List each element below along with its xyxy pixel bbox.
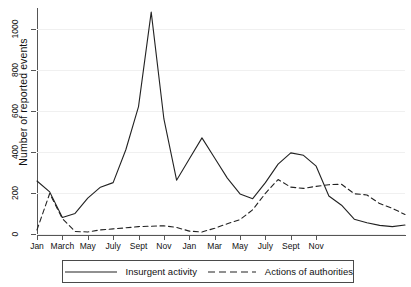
x-tick-mark (240, 235, 241, 240)
x-tick-mark (113, 235, 114, 240)
x-tick-mark (316, 235, 317, 240)
x-tick-mark (215, 235, 216, 240)
y-tick-mark (31, 234, 36, 235)
plot-area (37, 8, 405, 234)
x-tick-label: Nov (296, 241, 336, 251)
y-tick-mark (31, 111, 36, 112)
legend-swatch-solid (63, 267, 117, 277)
x-tick-mark (139, 235, 140, 240)
x-tick-mark (88, 235, 89, 240)
x-tick-mark (37, 235, 38, 240)
data-series-lines (37, 8, 405, 234)
x-tick-mark (265, 235, 266, 240)
y-tick-mark (31, 193, 36, 194)
y-tick-label: 1000 (10, 16, 20, 42)
chart-legend: Insurgent activity Actions of authoritie… (62, 260, 354, 283)
y-tick-label: 400 (10, 139, 20, 165)
y-tick-label: 200 (10, 180, 20, 206)
y-tick-mark (31, 70, 36, 71)
y-tick-mark (31, 152, 36, 153)
y-tick-mark (31, 29, 36, 30)
legend-label-insurgent-activity: Insurgent activity (126, 266, 197, 277)
chart-figure: Number of reported events 02004006008001… (0, 0, 411, 287)
x-tick-mark (164, 235, 165, 240)
gridline (37, 234, 405, 235)
series-line-actions-of-authorities (37, 180, 405, 232)
y-tick-label: 600 (10, 98, 20, 124)
legend-swatch-dashed (206, 267, 256, 277)
legend-label-actions-of-authorities: Actions of authorities (265, 266, 353, 277)
x-tick-mark (291, 235, 292, 240)
x-tick-mark (62, 235, 63, 240)
y-tick-label: 800 (10, 57, 20, 83)
x-tick-mark (189, 235, 190, 240)
series-line-insurgent-activity (37, 12, 405, 226)
